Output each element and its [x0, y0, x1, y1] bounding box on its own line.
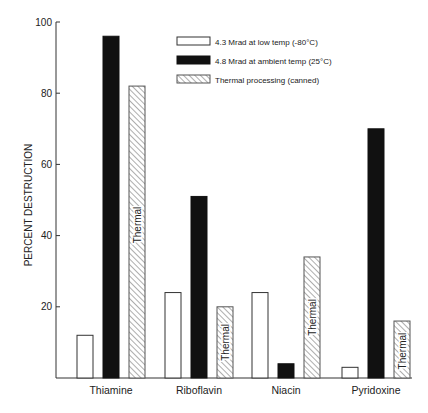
y-tick-label: 20	[41, 301, 53, 312]
bar-white	[342, 367, 358, 378]
bar-group-riboflavin: Riboflavin	[165, 196, 233, 396]
y-tick-label: 100	[35, 17, 52, 28]
bar-white	[165, 293, 181, 378]
legend-label: 4.8 Mrad at ambient temp (25°C)	[215, 57, 332, 66]
y-tick-label: 80	[41, 88, 53, 99]
thermal-annotation: Thermal	[397, 333, 408, 370]
legend-swatch-hatched	[177, 75, 210, 83]
y-tick-label: 40	[41, 230, 53, 241]
thermal-annotation: Thermal	[307, 299, 318, 336]
bars: ThiamineRiboflavinNiacinPyridoxineTherma…	[77, 36, 410, 396]
legend-swatch-black	[177, 56, 210, 64]
y-tick-label: 60	[41, 159, 53, 170]
legend-swatch-white	[177, 37, 210, 45]
bar-black	[103, 36, 119, 378]
x-tick-label: Riboflavin	[176, 384, 222, 396]
bar-black	[278, 364, 294, 378]
x-tick-label: Niacin	[271, 384, 300, 396]
x-tick-label: Thiamine	[89, 384, 132, 396]
thermal-annotation: Thermal	[220, 324, 231, 361]
legend-label: Thermal processing (canned)	[215, 76, 319, 85]
bar-black	[368, 129, 384, 378]
bar-chart: 20406080100 ThiamineRiboflavinNiacinPyri…	[0, 0, 428, 413]
bar-white	[252, 293, 268, 378]
legend: 4.3 Mrad at low temp (-80°C)4.8 Mrad at …	[177, 37, 332, 85]
y-axis-label: PERCENT DESTRUCTION	[23, 144, 34, 267]
x-tick-label: Pyridoxine	[351, 384, 400, 396]
bar-black	[191, 196, 207, 378]
bar-white	[77, 335, 93, 378]
y-axis: 20406080100	[35, 17, 60, 379]
thermal-annotation: Thermal	[132, 207, 143, 244]
legend-label: 4.3 Mrad at low temp (-80°C)	[215, 38, 318, 47]
